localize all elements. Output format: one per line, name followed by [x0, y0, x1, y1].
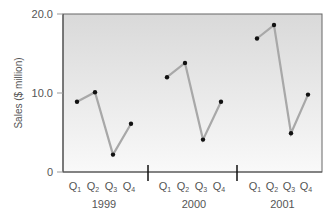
data-point: [165, 75, 169, 79]
data-point: [75, 99, 79, 103]
quarter-label: Q4: [300, 180, 313, 193]
data-point: [111, 152, 115, 156]
y-axis-title: Sales ($ million): [13, 57, 24, 128]
data-point: [219, 99, 223, 103]
data-point: [201, 137, 205, 141]
quarter-label: Q4: [213, 180, 226, 193]
quarter-label: Q2: [266, 180, 279, 193]
quarter-label: Q2: [87, 180, 100, 193]
quarter-label: Q1: [159, 180, 172, 193]
quarter-label: Q1: [69, 180, 82, 193]
data-point: [289, 131, 293, 135]
quarter-label: Q3: [105, 180, 118, 193]
year-label-1999: 1999: [92, 198, 116, 210]
ytick-label-20: 20.0: [32, 8, 53, 20]
ytick-label-0: 0: [47, 166, 53, 178]
sales-line-chart: 20.0 10.0 0 Sales ($ million) Q1Q2Q3Q419…: [0, 0, 333, 223]
data-point: [129, 122, 133, 126]
year-label-2001: 2001: [270, 198, 294, 210]
quarter-label: Q3: [195, 180, 208, 193]
ytick-label-10: 10.0: [32, 87, 53, 99]
quarter-label: Q2: [177, 180, 190, 193]
quarter-label: Q3: [283, 180, 296, 193]
data-point: [93, 90, 97, 94]
data-point: [183, 61, 187, 65]
data-point: [272, 23, 276, 27]
quarter-label: Q1: [249, 180, 262, 193]
data-point: [255, 36, 259, 40]
quarter-label: Q4: [123, 180, 136, 193]
x-axis-labels: Q1Q2Q3Q41999Q1Q2Q3Q42000Q1Q2Q3Q42001: [69, 180, 313, 210]
data-point: [306, 92, 310, 96]
year-label-2000: 2000: [182, 198, 206, 210]
